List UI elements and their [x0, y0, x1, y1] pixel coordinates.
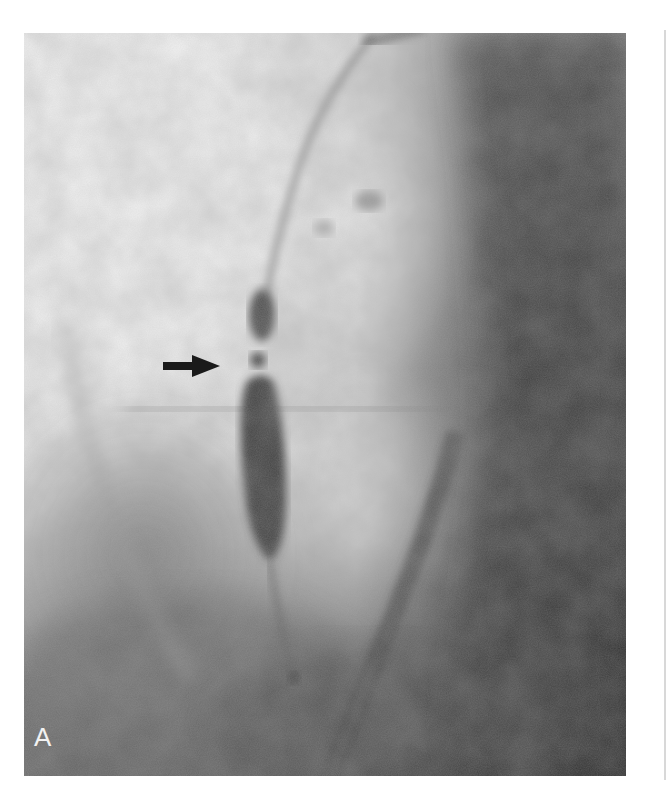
- radiograph-figure: A: [24, 33, 626, 776]
- panel-label: A: [34, 724, 51, 750]
- radiograph-image: [24, 33, 626, 776]
- page-edge-divider: [664, 30, 666, 780]
